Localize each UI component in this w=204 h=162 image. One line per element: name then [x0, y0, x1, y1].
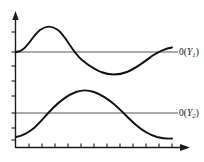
- sinusoid-figure: 0(Y1) 0(Y2): [0, 0, 204, 162]
- y-axis-arrow-icon: [12, 11, 18, 20]
- curve-label-y2: 0(Y2): [179, 108, 199, 119]
- chart-canvas: 0(Y1) 0(Y2): [0, 0, 204, 162]
- x-axis-arrow-icon: [180, 144, 190, 151]
- curve-y2: [16, 90, 172, 138]
- label-y1-prefix: 0(: [179, 47, 187, 58]
- label-y2-prefix: 0(: [179, 108, 187, 119]
- label-y2-suffix: ): [196, 108, 199, 119]
- label-y1-suffix: ): [196, 47, 199, 58]
- curve-label-y1: 0(Y1): [179, 47, 199, 58]
- curve-y1: [16, 27, 172, 75]
